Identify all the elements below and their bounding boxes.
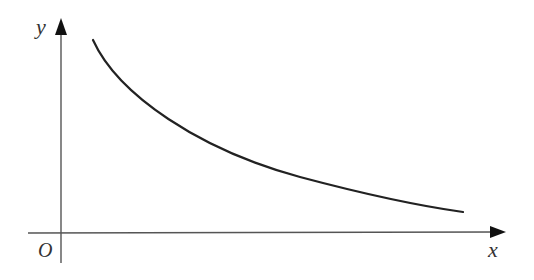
function-graph: y x O: [0, 0, 534, 280]
x-axis: [28, 232, 495, 233]
x-axis-label: x: [487, 237, 498, 262]
y-axis-label: y: [34, 14, 46, 39]
y-axis-arrowhead-icon: [55, 18, 67, 35]
function-curve: [93, 40, 463, 212]
origin-label: O: [38, 239, 52, 261]
